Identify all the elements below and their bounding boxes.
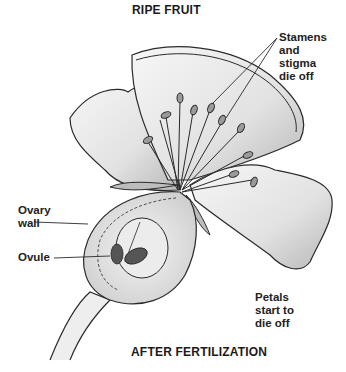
stem (50, 292, 110, 360)
petal-right (190, 165, 332, 269)
petals-label: Petals start to die off (255, 291, 294, 330)
ovule-label: Ovule (18, 251, 50, 264)
bottom-title: AFTER FERTILIZATION (131, 345, 267, 359)
top-title: RIPE FRUIT (132, 3, 201, 17)
ovary-wall-label: Ovary wall (18, 204, 51, 230)
stamens-label: Stamens and stigma die off (279, 31, 327, 83)
ovule-shape-1 (111, 244, 123, 264)
